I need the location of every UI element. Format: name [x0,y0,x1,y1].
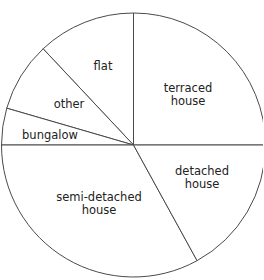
pie-slice-terraced-house [134,13,264,145]
slice-label-flat: flat [94,59,113,73]
slice-label-terraced-house: terracedhouse [164,81,213,108]
pie-slices [1,13,263,277]
slice-label-bungalow: bungalow [22,128,78,142]
slice-label-other: other [54,97,85,111]
pie-chart-svg: terracedhouseflatotherbungalowsemi-detac… [0,0,263,280]
pie-chart: terracedhouseflatotherbungalowsemi-detac… [0,0,263,280]
